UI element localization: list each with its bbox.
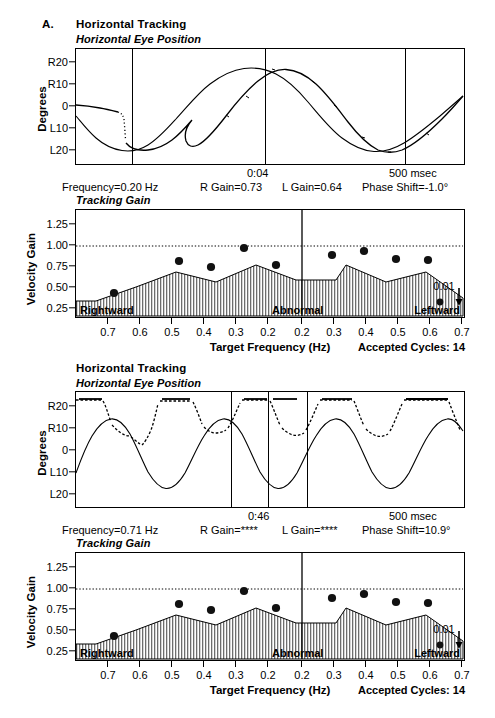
xtick-mark	[365, 661, 366, 667]
xtick-mark	[171, 661, 172, 667]
ytick-label: 0	[32, 444, 68, 456]
block-1-r-gain: R Gain=0.73	[200, 181, 262, 193]
xtick-mark	[203, 318, 204, 324]
ytick-label: 1.25	[28, 218, 68, 230]
xtick-mark	[301, 661, 302, 667]
xtick-label: 0.2	[294, 326, 309, 338]
ytick-label: 0.75	[28, 260, 68, 272]
ytick-label: L20	[32, 488, 68, 500]
time-marker-line	[268, 392, 269, 507]
xtick-mark	[301, 318, 302, 324]
block-1-tracking-gain-plot: Rightward Abnormal Leftward	[75, 209, 465, 318]
xtick-mark	[333, 661, 334, 667]
block-1-time-label: 0:04	[247, 167, 268, 179]
ytick-label: 0	[32, 100, 68, 112]
xtick-label: 0.5	[390, 326, 405, 338]
xtick-mark	[139, 318, 140, 324]
ytick-label: 1.00	[28, 582, 68, 594]
block-1-label-rightward: Rightward	[80, 304, 134, 316]
xtick-label: 0.3	[326, 669, 341, 681]
xtick-mark	[397, 318, 398, 324]
ytick-label: R20	[32, 56, 68, 68]
xtick-mark	[203, 661, 204, 667]
xtick-label: 0.5	[164, 669, 179, 681]
ytick-label: 0.25	[28, 645, 68, 657]
block-2-frequency: Frequency=0.71 Hz	[62, 524, 158, 536]
block-1-scale-label: 500 msec	[389, 167, 437, 179]
block-2-position-subtitle: Horizontal Eye Position	[76, 377, 201, 389]
xtick-mark	[171, 318, 172, 324]
xtick-label: 0.2	[260, 326, 275, 338]
block-2-phase-shift: Phase Shift=10.9°	[362, 524, 451, 536]
ytick-label: 1.00	[28, 239, 68, 251]
block-2-eye-position-plot	[75, 391, 465, 508]
xtick-label: 0.2	[260, 669, 275, 681]
xtick-label: 0.3	[326, 326, 341, 338]
xtick-label: 0.5	[164, 326, 179, 338]
ytick-label: R10	[32, 78, 68, 90]
time-marker-line	[405, 49, 406, 164]
ytick-label: R10	[32, 422, 68, 434]
xtick-label: 0.4	[358, 669, 373, 681]
ytick-label: L10	[32, 466, 68, 478]
block-2-gain-subtitle: Tracking Gain	[76, 537, 150, 549]
block-2-scale-label: 500 msec	[389, 510, 437, 522]
xtick-mark	[107, 318, 108, 324]
xtick-label: 0.3	[228, 669, 243, 681]
xtick-label: 0.5	[390, 669, 405, 681]
block-1-l-gain: L Gain=0.64	[282, 181, 342, 193]
block-1-callout-value: 0.01	[433, 280, 454, 292]
block-2-accepted-cycles: Accepted Cycles: 14	[358, 684, 465, 696]
xtick-label: 0.6	[422, 669, 437, 681]
xtick-mark	[235, 661, 236, 667]
xtick-mark	[429, 661, 430, 667]
block-1-phase-shift: Phase Shift=-1.0°	[362, 181, 448, 193]
tracking-gain-graphic-1	[76, 210, 463, 316]
block-2-time-label: 0:46	[248, 510, 269, 522]
ytick-label: 0.50	[28, 281, 68, 293]
panel-letter: A.	[42, 18, 54, 30]
xtick-mark	[429, 318, 430, 324]
xtick-label: 0.4	[196, 669, 211, 681]
time-marker-line	[231, 392, 232, 507]
block-1-gain-subtitle: Tracking Gain	[76, 194, 150, 206]
xtick-mark	[397, 661, 398, 667]
time-marker-line	[132, 49, 133, 164]
ytick-label: 0.25	[28, 302, 68, 314]
xtick-label: 0.2	[294, 669, 309, 681]
block-2-callout-value: 0.01	[433, 623, 454, 635]
xtick-mark	[139, 661, 140, 667]
xtick-label: 0.6	[422, 326, 437, 338]
ytick-label: L10	[32, 122, 68, 134]
ytick-label: 0.75	[28, 603, 68, 615]
block-2-l-gain: L Gain=****	[282, 524, 338, 536]
block-2-r-gain: R Gain=****	[200, 524, 258, 536]
xtick-mark	[333, 318, 334, 324]
block-1-frequency: Frequency=0.20 Hz	[62, 181, 158, 193]
xtick-mark	[235, 318, 236, 324]
xtick-label: 0.4	[196, 326, 211, 338]
xtick-mark	[267, 661, 268, 667]
block-2-label-rightward: Rightward	[80, 647, 134, 659]
block-1-title: Horizontal Tracking	[76, 18, 187, 30]
block-1-accepted-cycles: Accepted Cycles: 14	[358, 341, 465, 353]
xtick-mark	[461, 318, 462, 324]
eye-position-trace-2	[76, 392, 463, 506]
ytick-label: L20	[32, 144, 68, 156]
xtick-label: 0.4	[358, 326, 373, 338]
block-2-tracking-gain-plot: Rightward Abnormal Leftward	[75, 552, 465, 661]
block-2-title: Horizontal Tracking	[76, 362, 187, 374]
ytick-label: R20	[32, 400, 68, 412]
xtick-mark	[107, 661, 108, 667]
tracking-gain-graphic-2	[76, 553, 463, 659]
block-1-eye-position-plot	[75, 48, 465, 165]
block-1-label-leftward: Leftward	[414, 304, 460, 316]
time-marker-line	[307, 392, 308, 507]
xtick-label: 0.3	[228, 326, 243, 338]
xtick-mark	[461, 661, 462, 667]
xtick-label: 0.6	[132, 669, 147, 681]
ytick-label: 1.25	[28, 561, 68, 573]
ytick-label: 0.50	[28, 624, 68, 636]
block-1-gain-xlabel: Target Frequency (Hz)	[210, 341, 331, 353]
block-2-label-abnormal: Abnormal	[272, 647, 323, 659]
